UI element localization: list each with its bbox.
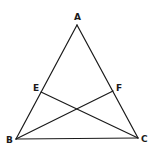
label-b: B bbox=[6, 135, 13, 145]
label-a: A bbox=[74, 12, 81, 22]
segment-bf bbox=[16, 91, 113, 139]
segment-ab bbox=[16, 25, 77, 139]
segment-ce bbox=[41, 92, 138, 138]
segment-ac bbox=[77, 25, 138, 138]
label-c: C bbox=[141, 134, 148, 144]
segment-bc bbox=[16, 138, 138, 139]
label-f: F bbox=[116, 83, 122, 93]
triangle-diagram: A B C E F bbox=[0, 0, 155, 151]
label-e: E bbox=[33, 83, 39, 93]
